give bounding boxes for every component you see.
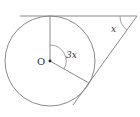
central-angle-label: 3x [66, 50, 77, 60]
external-angle-arc [120, 16, 127, 30]
center-point [49, 60, 52, 63]
external-angle-label: x [111, 24, 116, 34]
radius-lower [50, 61, 89, 83]
center-label: O [37, 56, 45, 67]
geometry-diagram: O 3x x [0, 0, 140, 117]
